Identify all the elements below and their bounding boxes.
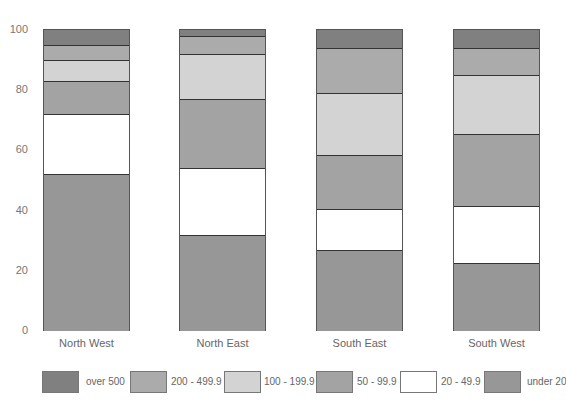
y-tick-label: 100 [0, 23, 28, 35]
legend-label: 100 - 199.9 [264, 376, 315, 387]
bar-south-west [453, 29, 540, 331]
bar-segment-over-500 [44, 30, 129, 45]
bar-segment-under-20 [317, 250, 402, 331]
legend-swatch [224, 371, 261, 393]
y-tick-label: 60 [0, 143, 28, 155]
x-category-label: North West [43, 337, 130, 349]
y-tick-label: 0 [0, 324, 28, 336]
bar-segment-20-49-9 [44, 114, 129, 174]
legend-label: 50 - 99.9 [357, 376, 396, 387]
legend-label: 20 - 49.9 [441, 376, 480, 387]
bar-segment-over-500 [454, 30, 539, 48]
bar-segment-under-20 [180, 235, 265, 331]
legend-label: under 20 [527, 376, 566, 387]
legend-label: over 500 [86, 376, 125, 387]
bar-segment-50-99-9 [317, 155, 402, 209]
bar-segment-200-499-9 [454, 48, 539, 75]
bar-segment-200-499-9 [180, 36, 265, 54]
bar-south-east [316, 29, 403, 331]
legend-swatch [42, 371, 79, 393]
bar-segment-under-20 [44, 174, 129, 331]
bar-north-west [43, 29, 130, 331]
bar-segment-50-99-9 [454, 134, 539, 206]
bar-segment-200-499-9 [44, 45, 129, 60]
x-category-label: North East [179, 337, 266, 349]
bar-segment-20-49-9 [180, 168, 265, 234]
legend-swatch [130, 371, 167, 393]
y-tick-label: 20 [0, 264, 28, 276]
bar-segment-over-500 [180, 30, 265, 36]
legend-swatch [316, 371, 353, 393]
bar-segment-50-99-9 [180, 99, 265, 168]
bar-segment-100-199-9 [317, 93, 402, 155]
x-category-label: South East [316, 337, 403, 349]
bar-segment-100-199-9 [180, 54, 265, 99]
bar-segment-20-49-9 [454, 206, 539, 263]
bar-segment-100-199-9 [454, 75, 539, 134]
bar-segment-100-199-9 [44, 60, 129, 81]
y-tick-label: 80 [0, 83, 28, 95]
y-tick-label: 40 [0, 204, 28, 216]
bar-segment-50-99-9 [44, 81, 129, 114]
bar-segment-200-499-9 [317, 48, 402, 93]
bar-segment-under-20 [454, 263, 539, 331]
legend-swatch [400, 371, 437, 393]
bar-segment-over-500 [317, 30, 402, 48]
bar-north-east [179, 29, 266, 331]
bar-segment-20-49-9 [317, 209, 402, 250]
legend-swatch [484, 371, 521, 393]
x-category-label: South West [453, 337, 540, 349]
legend-label: 200 - 499.9 [171, 376, 222, 387]
